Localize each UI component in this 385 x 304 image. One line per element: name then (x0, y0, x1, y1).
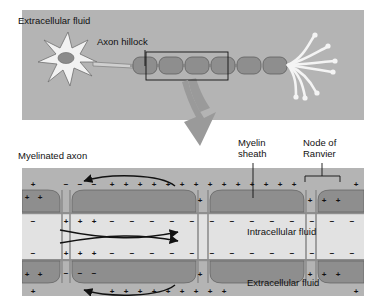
svg-text:+: + (92, 217, 97, 226)
svg-text:+: + (198, 270, 203, 279)
svg-text:+: + (336, 196, 341, 205)
label-myelin-sheath-line1: Myelin (238, 137, 265, 148)
svg-text:+: + (124, 180, 129, 189)
svg-text:−: − (250, 217, 255, 226)
figure-canvas: Extracellular fluid Axon hillock (0, 0, 385, 304)
svg-text:+: + (236, 180, 241, 189)
svg-text:−: − (350, 217, 355, 226)
svg-text:−: − (350, 249, 355, 258)
svg-text:+: + (64, 217, 69, 226)
label-myelinated-axon: Myelinated axon (18, 150, 87, 161)
svg-text:+: + (198, 196, 203, 205)
svg-text:+: + (222, 180, 227, 189)
svg-text:−: − (190, 217, 195, 226)
svg-text:−: − (290, 217, 295, 226)
svg-text:+: + (152, 180, 157, 189)
label-intracellular-fluid: Intracellular fluid (247, 226, 316, 237)
svg-text:+: + (38, 270, 43, 279)
svg-text:+: + (292, 180, 297, 189)
svg-text:−: − (31, 217, 36, 226)
svg-text:−: − (310, 217, 315, 226)
svg-text:−: − (290, 249, 295, 258)
nucleus (58, 53, 74, 64)
svg-text:−: − (230, 217, 235, 226)
svg-text:−: − (190, 249, 195, 258)
svg-text:+: + (208, 287, 213, 296)
svg-text:+: + (194, 180, 199, 189)
svg-text:+: + (180, 287, 185, 296)
svg-text:+: + (138, 180, 143, 189)
svg-text:−: − (64, 269, 69, 278)
svg-text:−: − (230, 249, 235, 258)
svg-text:+: + (78, 249, 83, 258)
svg-text:−: − (31, 249, 36, 258)
svg-text:−: − (78, 269, 83, 278)
svg-text:−: − (150, 249, 155, 258)
svg-text:−: − (270, 249, 275, 258)
svg-text:−: − (330, 249, 335, 258)
svg-text:−: − (310, 249, 315, 258)
svg-text:+: + (25, 193, 30, 202)
svg-text:−: − (110, 249, 115, 258)
svg-text:−: − (130, 217, 135, 226)
svg-text:+: + (278, 180, 283, 189)
svg-text:−: − (270, 217, 275, 226)
svg-text:+: + (194, 287, 199, 296)
label-node-of-ranvier-line1: Node of (303, 137, 337, 148)
svg-text:+: + (92, 249, 97, 258)
svg-text:+: + (222, 287, 227, 296)
label-node-of-ranvier-line2: Ranvier (303, 148, 336, 159)
svg-text:+: + (25, 270, 30, 279)
svg-text:−: − (330, 217, 335, 226)
svg-text:+: + (208, 180, 213, 189)
svg-text:+: + (78, 217, 83, 226)
svg-text:−: − (110, 217, 115, 226)
svg-text:−: − (250, 249, 255, 258)
svg-text:−: − (150, 217, 155, 226)
svg-text:+: + (308, 196, 313, 205)
svg-text:+: + (38, 193, 43, 202)
svg-text:+: + (31, 180, 36, 189)
svg-text:−: − (170, 249, 175, 258)
svg-text:+: + (64, 249, 69, 258)
svg-text:−: − (92, 180, 97, 189)
svg-text:−: − (210, 217, 215, 226)
svg-text:+: + (31, 287, 36, 296)
svg-text:+: + (322, 196, 327, 205)
svg-text:+: + (180, 180, 185, 189)
svg-text:−: − (170, 217, 175, 226)
svg-text:+: + (110, 180, 115, 189)
svg-text:−: − (130, 249, 135, 258)
neuron-diagram: Extracellular fluid Axon hillock (0, 0, 385, 304)
svg-text:+: + (250, 180, 255, 189)
svg-text:−: − (92, 269, 97, 278)
svg-text:+: + (152, 287, 157, 296)
label-extracellular-fluid-bottom: Extracellular fluid (247, 277, 319, 288)
svg-text:+: + (336, 270, 341, 279)
svg-text:−: − (64, 180, 69, 189)
svg-text:+: + (264, 180, 269, 189)
svg-text:−: − (78, 180, 83, 189)
svg-text:−: − (210, 249, 215, 258)
label-myelin-sheath-line2: sheath (238, 148, 267, 159)
label-extracellular-fluid-top: Extracellular fluid (18, 15, 90, 26)
svg-text:+: + (354, 287, 359, 296)
label-axon-hillock: Axon hillock (97, 36, 148, 47)
svg-text:+: + (354, 180, 359, 189)
svg-text:+: + (322, 270, 327, 279)
